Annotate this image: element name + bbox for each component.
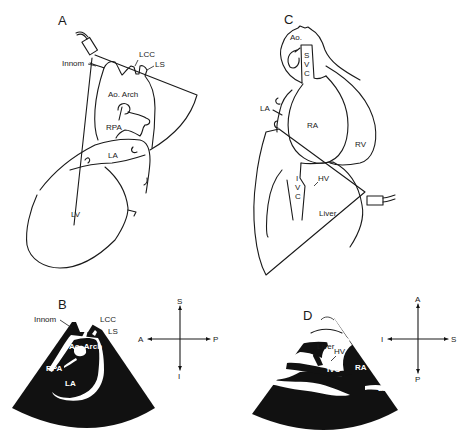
panel-a-label: A	[58, 13, 67, 28]
aortic-arch-drawing	[90, 61, 155, 148]
compass-up: A	[415, 295, 421, 304]
panel-c-label: C	[284, 12, 293, 27]
orientation-compass-b: S I A P	[138, 297, 218, 381]
panel-a: A Innom	[27, 13, 197, 268]
compass-right: P	[213, 335, 218, 344]
label-ivc-c: C	[295, 192, 301, 201]
panel-d-label: D	[303, 308, 312, 323]
label-svc-s: S	[304, 51, 309, 60]
label-ra-d: RA	[355, 363, 367, 372]
compass-down: P	[415, 375, 420, 384]
label-rv: RV	[355, 140, 367, 149]
leader-line	[314, 182, 318, 186]
transducer-icon	[76, 32, 97, 55]
label-ivc-v: V	[295, 183, 301, 192]
label-liver-d: Liver	[317, 342, 335, 351]
panel-d: D Liver HV IVC RA LA A P I S	[252, 295, 456, 430]
compass-up: S	[177, 297, 182, 306]
label-ls-b: LS	[108, 327, 118, 336]
label-la-c: LA	[260, 104, 270, 113]
label-ivc-d: IVC	[327, 365, 341, 374]
label-lv: LV	[71, 210, 81, 219]
orientation-compass-d: A P I S	[381, 295, 456, 384]
label-ls: LS	[155, 60, 165, 69]
label-ao-arch: Ao. Arch	[108, 90, 138, 99]
label-innom: Innom	[62, 59, 85, 68]
label-ao-arch-b: Ao. Arch	[69, 342, 102, 351]
leader-line	[60, 320, 72, 328]
panel-b: B Innom LCC LS Ao. Arch RPA LA S I A P	[12, 297, 218, 428]
label-la-d: LA	[378, 384, 389, 393]
label-rpa-b: RPA	[46, 364, 63, 373]
label-hv-d: HV	[334, 347, 346, 356]
label-hv: HV	[318, 174, 330, 183]
label-rpa: RPA	[106, 123, 123, 132]
leader-line	[147, 66, 154, 70]
compass-down: I	[178, 372, 180, 381]
label-la-b: LA	[65, 379, 76, 388]
panel-b-label: B	[58, 297, 67, 312]
compass-left: A	[138, 335, 144, 344]
label-innom-b: Innom	[34, 315, 57, 324]
label-ao: Ao.	[290, 33, 302, 42]
panel-c: C	[254, 12, 395, 275]
compass-right: S	[451, 335, 456, 344]
label-lcc: LCC	[139, 50, 155, 59]
leader-line	[135, 60, 138, 66]
label-lcc-b: LCC	[100, 315, 116, 324]
label-liver: Liver	[319, 209, 337, 218]
compass-left: I	[381, 335, 383, 344]
label-svc-c: C	[304, 69, 310, 78]
subcostal-sector	[254, 129, 395, 275]
label-la: LA	[108, 151, 118, 160]
label-ra: RA	[307, 121, 319, 130]
heart-drawing	[27, 139, 150, 268]
label-ivc-i: I	[296, 174, 298, 183]
label-svc-v: V	[304, 60, 310, 69]
